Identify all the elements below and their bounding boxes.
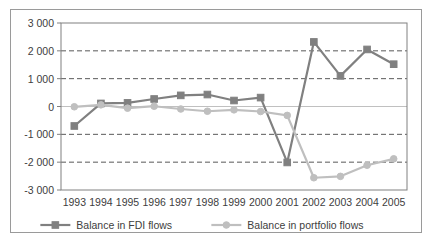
data-point-marker xyxy=(257,108,264,115)
x-tick-label: 2000 xyxy=(249,196,273,208)
series-portfolio xyxy=(71,102,397,182)
legend-item-portfolio[interactable]: Balance in portfolio flows xyxy=(211,219,363,231)
data-point-marker xyxy=(231,107,238,114)
line-chart: 3 0002 0001 0000-1 000-2 000-3 000 19931… xyxy=(11,10,421,232)
data-point-marker xyxy=(204,91,211,98)
x-tick-label: 1994 xyxy=(89,196,113,208)
series-fdi xyxy=(71,39,397,166)
x-tick-label: 1996 xyxy=(142,196,166,208)
y-tick-label: 1 000 xyxy=(28,73,54,85)
legend-marker-square xyxy=(52,222,59,229)
x-tick-label: 2005 xyxy=(382,196,406,208)
x-tick-label: 1998 xyxy=(196,196,220,208)
x-tick-label: 2002 xyxy=(302,196,326,208)
x-axis-tick-labels: 1993199419951996199719981999200020012002… xyxy=(63,196,406,208)
data-point-marker xyxy=(284,112,291,119)
data-point-marker xyxy=(311,174,318,181)
x-tick-label: 2001 xyxy=(276,196,300,208)
data-point-marker xyxy=(390,61,397,68)
y-tick-label: -1 000 xyxy=(24,128,54,140)
data-point-marker xyxy=(284,159,291,166)
x-tick-label: 2004 xyxy=(355,196,379,208)
legend-marker-circle xyxy=(223,222,230,229)
x-tick-label: 1993 xyxy=(63,196,87,208)
data-point-marker xyxy=(337,73,344,80)
data-point-marker xyxy=(364,162,371,169)
x-tick-label: 1999 xyxy=(222,196,246,208)
data-point-marker xyxy=(311,39,318,46)
data-point-marker xyxy=(71,123,78,130)
x-tick-label: 2003 xyxy=(329,196,353,208)
chart-legend: Balance in FDI flowsBalance in portfolio… xyxy=(40,219,363,231)
legend-label: Balance in portfolio flows xyxy=(247,219,363,231)
data-series xyxy=(71,39,397,181)
y-tick-label: 0 xyxy=(48,101,54,113)
y-axis-tick-labels: 3 0002 0001 0000-1 000-2 000-3 000 xyxy=(24,17,54,196)
chart-frame: 3 0002 0001 0000-1 000-2 000-3 000 19931… xyxy=(10,9,422,233)
data-point-marker xyxy=(124,105,131,112)
series-line xyxy=(74,105,393,178)
data-point-marker xyxy=(390,156,397,163)
data-point-marker xyxy=(98,102,105,109)
data-point-marker xyxy=(364,46,371,53)
data-point-marker xyxy=(231,97,238,104)
legend-item-fdi[interactable]: Balance in FDI flows xyxy=(40,219,172,231)
legend-label: Balance in FDI flows xyxy=(76,219,172,231)
data-point-marker xyxy=(337,173,344,180)
data-point-marker xyxy=(71,103,78,110)
y-tick-label: 3 000 xyxy=(28,17,54,29)
data-point-marker xyxy=(151,103,158,110)
data-point-marker xyxy=(204,108,211,115)
data-point-marker xyxy=(151,96,158,103)
data-point-marker xyxy=(257,94,264,101)
data-point-marker xyxy=(177,106,184,113)
y-tick-label: -2 000 xyxy=(24,156,54,168)
y-tick-label: -3 000 xyxy=(24,184,54,196)
y-tick-label: 2 000 xyxy=(28,45,54,57)
data-point-marker xyxy=(177,92,184,99)
x-tick-label: 1997 xyxy=(169,196,193,208)
x-tick-label: 1995 xyxy=(116,196,140,208)
